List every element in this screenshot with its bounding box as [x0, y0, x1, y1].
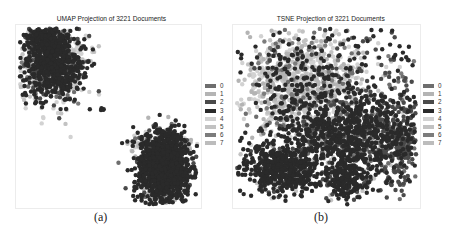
legend-swatch — [423, 141, 434, 145]
tsne-scatter-points — [233, 25, 420, 208]
legend-swatch — [205, 109, 216, 113]
tsne-legend: 01234567 — [423, 82, 447, 148]
legend-label: 6 — [438, 131, 442, 139]
panel-a-title: UMAP Projection of 3221 Documents — [57, 14, 166, 23]
legend-swatch — [423, 125, 434, 129]
panel-b-caption: (b) — [314, 210, 328, 225]
legend-label: 2 — [438, 98, 442, 106]
legend-swatch — [423, 84, 434, 88]
panel-b-title: TSNE Projection of 3221 Documents — [277, 14, 385, 23]
legend-swatch — [423, 117, 434, 121]
legend-swatch — [423, 100, 434, 104]
legend-label: 5 — [438, 123, 442, 131]
legend-swatch — [205, 117, 216, 121]
umap-scatter-points — [16, 25, 201, 208]
legend-label: 3 — [438, 107, 442, 115]
legend-label: 3 — [220, 107, 224, 115]
legend-label: 0 — [220, 82, 224, 90]
legend-swatch — [205, 141, 216, 145]
legend-label: 0 — [438, 82, 442, 90]
tsne-scatter-plot — [232, 24, 421, 209]
legend-label: 7 — [438, 139, 442, 147]
legend-label: 4 — [438, 115, 442, 123]
legend-label: 1 — [220, 90, 224, 98]
legend-swatch — [205, 133, 216, 137]
legend-label: 7 — [220, 139, 224, 147]
legend-swatch — [205, 84, 216, 88]
legend-label: 2 — [220, 98, 224, 106]
legend-swatch — [423, 133, 434, 137]
legend-swatch — [423, 109, 434, 113]
umap-legend: 01234567 — [205, 82, 227, 148]
legend-swatch — [423, 92, 434, 96]
legend-label: 6 — [220, 131, 224, 139]
legend-swatch — [205, 125, 216, 129]
panel-a-caption: (a) — [94, 210, 107, 225]
legend-swatch — [205, 92, 216, 96]
legend-label: 4 — [220, 115, 224, 123]
legend-label: 1 — [438, 90, 442, 98]
legend-swatch — [205, 100, 216, 104]
umap-scatter-plot — [15, 24, 202, 209]
legend-label: 5 — [220, 123, 224, 131]
